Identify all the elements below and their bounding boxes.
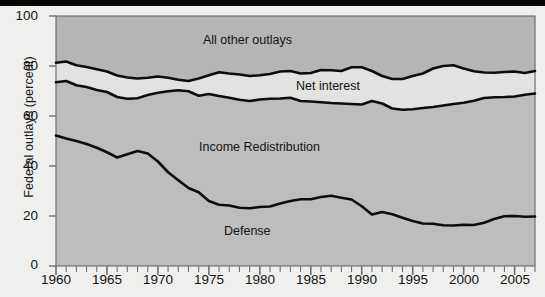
series-annotation-income-redistribution: Income Redistribution (199, 140, 320, 154)
series-annotation-defense: Defense (224, 224, 271, 238)
chart-figure: Federal outlays (percent) 100 80 60 40 2… (0, 0, 545, 297)
series-annotation-all-other-outlays: All other outlays (203, 33, 292, 47)
series-annotation-net-interest: Net interest (296, 79, 360, 93)
